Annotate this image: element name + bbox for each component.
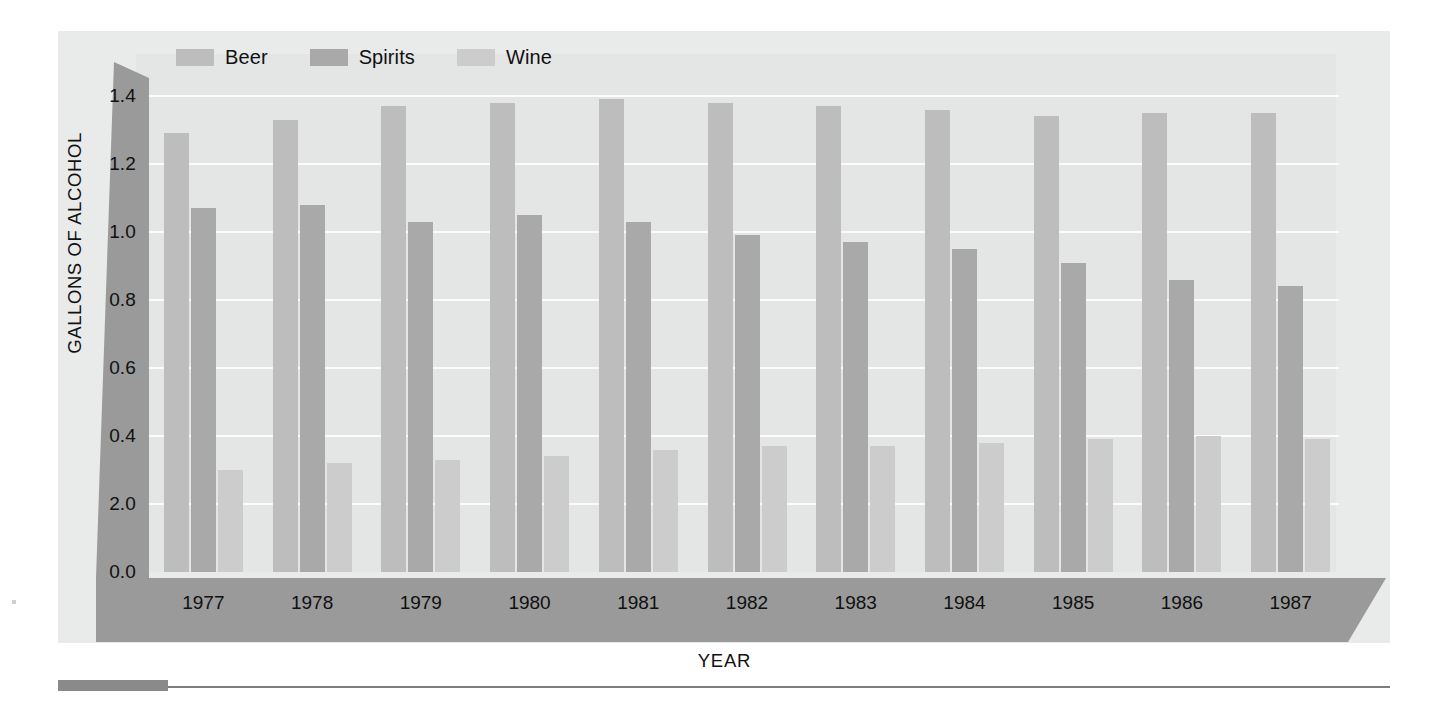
x-axis-tick-label-1985: 1985 <box>1013 592 1133 614</box>
bar-group-1978 <box>273 54 352 572</box>
bar-beer-1982 <box>708 103 733 572</box>
legend-label-spirits: Spirits <box>359 46 415 69</box>
footer-rule <box>58 686 1390 688</box>
bar-beer-1985 <box>1034 116 1059 572</box>
legend-item-spirits: Spirits <box>310 46 415 69</box>
bar-spirits-1980 <box>517 215 542 572</box>
x-axis-tick-label-1983: 1983 <box>796 592 916 614</box>
chart-figure: BeerSpiritsWine 1.41.21.00.80.60.42.00.0… <box>0 0 1449 720</box>
y-axis-tick-label: 0.4 <box>96 425 149 447</box>
bar-beer-1986 <box>1142 113 1167 572</box>
legend-label-beer: Beer <box>225 46 268 69</box>
x-axis-tick-label-1977: 1977 <box>143 592 263 614</box>
bar-beer-1983 <box>816 106 841 572</box>
bar-wine-1978 <box>327 463 352 572</box>
bar-group-1986 <box>1142 54 1221 572</box>
bar-spirits-1978 <box>300 205 325 572</box>
bar-spirits-1979 <box>408 222 433 572</box>
bar-spirits-1984 <box>952 249 977 572</box>
bar-wine-1980 <box>544 456 569 572</box>
x-axis-tick-label-1982: 1982 <box>687 592 807 614</box>
legend-item-wine: Wine <box>457 46 552 69</box>
bar-beer-1987 <box>1251 113 1276 572</box>
x-axis-tick-label-1981: 1981 <box>578 592 698 614</box>
legend-item-beer: Beer <box>176 46 268 69</box>
legend-swatch-spirits <box>310 49 348 66</box>
y-axis-tick-label: 0.0 <box>96 561 149 583</box>
bar-spirits-1985 <box>1061 263 1086 572</box>
y-axis-tick-label: 1.0 <box>96 221 149 243</box>
y-axis-tick-label: 0.6 <box>96 357 149 379</box>
bar-beer-1980 <box>490 103 515 572</box>
bar-beer-1984 <box>925 110 950 572</box>
bar-group-1982 <box>708 54 787 572</box>
x-axis-tick-label-1980: 1980 <box>470 592 590 614</box>
x-axis-tick-label-1984: 1984 <box>904 592 1024 614</box>
y-axis-tick-label: 0.8 <box>96 289 149 311</box>
bar-group-1981 <box>599 54 678 572</box>
legend-swatch-wine <box>457 49 495 66</box>
bar-group-1987 <box>1251 54 1330 572</box>
x-axis-tick-label-1987: 1987 <box>1231 592 1351 614</box>
bar-wine-1981 <box>653 450 678 572</box>
bar-wine-1983 <box>870 446 895 572</box>
y-axis-tick-label: 2.0 <box>96 493 149 515</box>
bar-group-1985 <box>1034 54 1113 572</box>
bar-beer-1979 <box>381 106 406 572</box>
bar-wine-1984 <box>979 443 1004 572</box>
y-axis-tick-label: 1.4 <box>96 85 149 107</box>
bar-group-1979 <box>381 54 460 572</box>
bar-beer-1981 <box>599 99 624 572</box>
bars-area <box>149 54 1345 572</box>
footer-rule-accent <box>58 680 168 691</box>
bar-wine-1982 <box>762 446 787 572</box>
bar-beer-1978 <box>273 120 298 572</box>
x-axis-tick-label-1978: 1978 <box>252 592 372 614</box>
bar-wine-1986 <box>1196 436 1221 572</box>
bar-wine-1977 <box>218 470 243 572</box>
bar-group-1984 <box>925 54 1004 572</box>
bar-spirits-1977 <box>191 208 216 572</box>
bar-wine-1987 <box>1305 439 1330 572</box>
bar-wine-1985 <box>1088 439 1113 572</box>
bar-spirits-1981 <box>626 222 651 572</box>
legend-swatch-beer <box>176 49 214 66</box>
bar-spirits-1986 <box>1169 280 1194 572</box>
bar-spirits-1982 <box>735 235 760 572</box>
legend-label-wine: Wine <box>506 46 552 69</box>
bar-group-1980 <box>490 54 569 572</box>
x-axis-title: YEAR <box>0 650 1449 672</box>
bar-wine-1979 <box>435 460 460 572</box>
x-axis-tick-label-1986: 1986 <box>1122 592 1242 614</box>
x-axis-tick-label-1979: 1979 <box>361 592 481 614</box>
chart-legend: BeerSpiritsWine <box>176 44 594 70</box>
y-axis-title: GALLONS OF ALCOHOL <box>64 113 86 373</box>
y-axis-tick-label: 1.2 <box>96 153 149 175</box>
bar-spirits-1987 <box>1278 286 1303 572</box>
bar-group-1983 <box>816 54 895 572</box>
bar-spirits-1983 <box>843 242 868 572</box>
bar-group-1977 <box>164 54 243 572</box>
page-speck <box>12 600 16 604</box>
bar-beer-1977 <box>164 133 189 572</box>
